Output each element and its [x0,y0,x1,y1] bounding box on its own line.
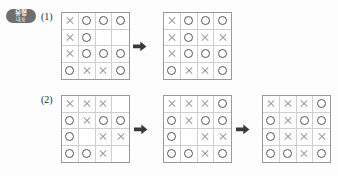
circle-mark-icon [82,49,91,58]
grid-cell [181,96,198,113]
item-number-1: (1) [41,11,53,22]
circle-mark-icon [116,66,125,75]
cross-mark-icon [218,33,227,42]
circle-mark-icon [300,116,309,125]
circle-mark-icon [116,16,125,25]
type-badge-line2: 대표 [16,16,26,22]
cross-mark-icon [82,116,91,125]
grid-cell [96,46,113,63]
cross-mark-icon [184,99,193,108]
grid-cell [280,113,297,130]
grid-cell [198,46,215,63]
grid-cell [112,63,129,80]
grid-item2-step2 [163,95,232,163]
grid-cell [62,46,79,63]
circle-mark-icon [218,149,227,158]
grid-cell [96,146,113,163]
circle-mark-icon [99,49,108,58]
cross-mark-icon [201,149,210,158]
grid-cell [263,129,280,146]
grid-cell [62,63,79,80]
grid-cell [79,146,96,163]
grid-cell [79,63,96,80]
grid-cell [214,63,231,80]
grid-cell [280,96,297,113]
circle-mark-icon [65,132,74,141]
grid-cell [214,30,231,47]
circle-mark-icon [82,149,91,158]
circle-mark-icon [65,116,74,125]
grid-cell [164,96,181,113]
cross-mark-icon [167,49,176,58]
circle-mark-icon [218,16,227,25]
circle-mark-icon [167,132,176,141]
grid-cell [297,113,314,130]
circle-mark-icon [116,49,125,58]
cross-mark-icon [300,99,309,108]
cross-mark-icon [184,66,193,75]
grid-cell [96,96,113,113]
cross-mark-icon [99,149,108,158]
grid-cell [79,113,96,130]
grid-cell [62,146,79,163]
cross-mark-icon [201,66,210,75]
circle-mark-icon [184,149,193,158]
circle-mark-icon [317,99,326,108]
circle-mark-icon [283,149,292,158]
grid-cell [181,113,198,130]
circle-mark-icon [218,116,227,125]
grid-cell [198,63,215,80]
circle-mark-icon [167,116,176,125]
cross-mark-icon [266,99,275,108]
grid-cell [297,146,314,163]
grid-cell [164,30,181,47]
grid-cell [79,129,96,146]
cross-mark-icon [300,132,309,141]
circle-mark-icon [184,33,193,42]
cross-mark-icon [184,116,193,125]
grid-cell [112,113,129,130]
grid-cell [214,113,231,130]
grid-cell [297,96,314,113]
circle-mark-icon [99,16,108,25]
circle-mark-icon [82,16,91,25]
grid-cell [198,146,215,163]
circle-mark-icon [218,99,227,108]
circle-mark-icon [317,149,326,158]
grid-cell [79,13,96,30]
cross-mark-icon [283,99,292,108]
grid-cell [164,46,181,63]
grid-cell [164,146,181,163]
cross-mark-icon [116,132,125,141]
cross-mark-icon [65,16,74,25]
circle-mark-icon [266,116,275,125]
grid-cell [214,96,231,113]
grid-cell [62,30,79,47]
grid-cell [181,63,198,80]
grid-cell [198,113,215,130]
circle-mark-icon [266,132,275,141]
grid-cell [62,13,79,30]
grid-cell [164,113,181,130]
arrow-right-icon [134,123,148,135]
grid-cell [198,13,215,30]
circle-mark-icon [201,116,210,125]
grid-cell [112,30,129,47]
grid-cell [164,13,181,30]
arrow-right-icon [133,40,147,52]
circle-mark-icon [167,149,176,158]
cross-mark-icon [201,99,210,108]
grid-cell [96,113,113,130]
circle-mark-icon [116,116,125,125]
cross-mark-icon [201,33,210,42]
cross-mark-icon [82,66,91,75]
grid-cell [112,13,129,30]
grid-cell [79,46,96,63]
cross-mark-icon [65,33,74,42]
grid-cell [112,96,129,113]
grid-cell [62,113,79,130]
circle-mark-icon [218,66,227,75]
circle-mark-icon [218,49,227,58]
grid-item1-step2 [163,12,232,80]
arrow-right-icon [236,123,250,135]
